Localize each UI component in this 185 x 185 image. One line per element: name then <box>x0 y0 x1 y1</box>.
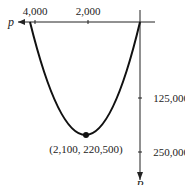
y-tick-label-250000: 250,000 <box>153 146 185 158</box>
chart-svg: 2,000 4,000 p R 125,000 250,000 (2,100, … <box>0 0 185 185</box>
vertex-label: (2,100, 220,500) <box>49 143 123 156</box>
y-axis-label: R <box>135 178 144 185</box>
x-axis-arrow-icon <box>18 19 25 25</box>
y-tick-label-125000: 125,000 <box>153 92 185 104</box>
parabola-curve <box>30 22 140 135</box>
x-axis-label: p <box>7 15 14 29</box>
x-tick-label-4000: 4,000 <box>23 5 48 17</box>
vertex-dot <box>83 132 89 138</box>
chart-figure: 2,000 4,000 p R 125,000 250,000 (2,100, … <box>0 0 185 185</box>
x-tick-label-2000: 2,000 <box>76 5 101 17</box>
